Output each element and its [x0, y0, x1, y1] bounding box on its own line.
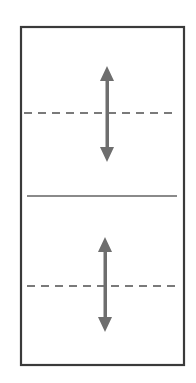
split-box-diagram: [0, 0, 196, 383]
upper-section: [24, 66, 176, 162]
lower-double-arrow-icon: [98, 237, 112, 332]
lower-section: [27, 237, 178, 332]
